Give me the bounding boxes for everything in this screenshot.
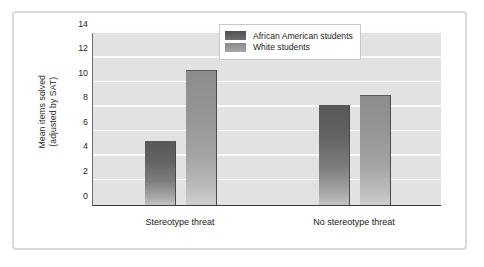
y-axis-tick-label: 14 xyxy=(78,19,88,29)
legend-label: White students xyxy=(253,42,310,52)
bar xyxy=(319,105,350,206)
legend-item-african-american-students: African American students xyxy=(225,31,355,41)
y-axis-tick-label: 6 xyxy=(83,117,88,127)
legend-label: African American students xyxy=(253,31,353,41)
legend-swatch-icon xyxy=(225,31,246,40)
bar xyxy=(145,141,176,205)
bar xyxy=(360,95,391,205)
bar-chart: Mean items solved (adjusted by SAT) 0246… xyxy=(14,13,469,252)
chart-legend: African American students White students xyxy=(219,24,361,60)
y-axis-tick-label: 4 xyxy=(83,141,88,151)
y-axis-title: Mean items solved (adjusted by SAT) xyxy=(37,32,58,192)
gridline xyxy=(93,81,441,83)
legend-swatch-icon xyxy=(225,43,246,52)
x-axis-category-label: Stereotype threat xyxy=(145,217,214,227)
legend-item-white-students: White students xyxy=(225,42,355,52)
y-axis-tick-label: 2 xyxy=(83,166,88,176)
figure-frame: Mean items solved (adjusted by SAT) 0246… xyxy=(12,11,467,250)
y-axis-tick-label: 10 xyxy=(78,68,88,78)
y-axis-tick-label: 12 xyxy=(78,43,88,53)
y-axis-tick-label: 8 xyxy=(83,92,88,102)
y-axis-tick-label: 0 xyxy=(83,191,88,201)
bar xyxy=(186,70,217,205)
x-axis-category-label: No stereotype threat xyxy=(313,217,395,227)
